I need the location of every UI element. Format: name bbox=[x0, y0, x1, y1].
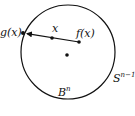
point-f bbox=[77, 40, 81, 44]
point-x bbox=[50, 36, 54, 40]
label-g: g(x) bbox=[0, 26, 22, 39]
label-ball: Bn bbox=[57, 85, 71, 99]
diagram-canvas: g(x) x f(x) Sn−1 Bn bbox=[0, 0, 135, 116]
label-ball-base: B bbox=[57, 86, 66, 99]
label-f: f(x) bbox=[75, 27, 95, 40]
label-x: x bbox=[52, 22, 59, 35]
label-sphere: Sn−1 bbox=[113, 71, 135, 85]
label-ball-exp: n bbox=[66, 85, 71, 93]
point-center bbox=[65, 53, 69, 57]
label-sphere-exp: n−1 bbox=[121, 71, 135, 79]
